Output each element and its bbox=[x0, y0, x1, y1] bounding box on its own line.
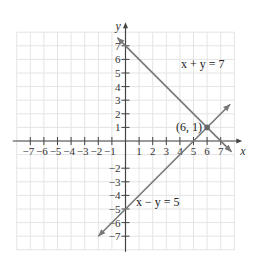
line1-equation-label: x + y = 7 bbox=[181, 57, 225, 71]
x-axis-label: x bbox=[239, 144, 246, 158]
x-tick-label: −7 bbox=[22, 145, 34, 157]
y-tick-label: 6 bbox=[115, 53, 121, 65]
y-tick-label: −7 bbox=[109, 230, 121, 242]
x-tick-label: −2 bbox=[90, 145, 102, 157]
x-tick-label: −1 bbox=[104, 145, 116, 157]
y-tick-label: −4 bbox=[109, 189, 121, 201]
y-tick-label: 2 bbox=[115, 108, 121, 120]
x-tick-label: −4 bbox=[63, 145, 75, 157]
y-tick-label: 3 bbox=[115, 94, 121, 106]
coordinate-graph: −7−6−5−4−3−2−11234567−7−6−5−4−3−21234567… bbox=[0, 0, 257, 261]
line2-equation-label: x − y = 5 bbox=[136, 195, 180, 209]
y-tick-label: −5 bbox=[109, 203, 121, 215]
intersection-point-label: (6, 1) bbox=[176, 120, 202, 134]
x-tick-label: 2 bbox=[150, 145, 156, 157]
y-tick-label: −6 bbox=[109, 217, 121, 229]
x-tick-label: −6 bbox=[36, 145, 48, 157]
x-tick-label: −3 bbox=[77, 145, 89, 157]
x-tick-label: −5 bbox=[50, 145, 62, 157]
y-tick-label: −2 bbox=[109, 162, 121, 174]
x-tick-label: 7 bbox=[218, 145, 224, 157]
y-tick-label: 4 bbox=[115, 81, 121, 93]
intersection-point-marker bbox=[204, 125, 210, 131]
y-tick-label: −3 bbox=[109, 176, 121, 188]
y-tick-label: 5 bbox=[115, 67, 121, 79]
x-tick-label: 6 bbox=[204, 145, 210, 157]
x-tick-label: 3 bbox=[164, 145, 170, 157]
x-tick-label: 1 bbox=[136, 145, 142, 157]
y-axis-label: y bbox=[115, 19, 122, 33]
plot-line bbox=[117, 38, 231, 152]
x-tick-label: 5 bbox=[191, 145, 197, 157]
y-tick-label: 1 bbox=[115, 121, 121, 133]
